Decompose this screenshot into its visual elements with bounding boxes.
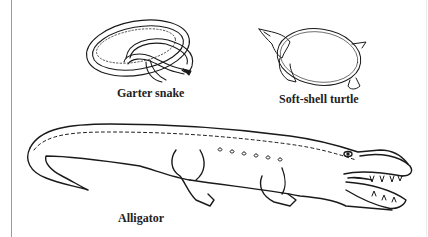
alligator-drawing	[28, 124, 412, 210]
soft-shell-turtle-label: Soft-shell turtle	[279, 92, 359, 107]
alligator-label: Alligator	[118, 211, 164, 226]
garter-snake-drawing	[82, 12, 194, 83]
garter-snake-label: Garter snake	[117, 86, 184, 101]
soft-shell-turtle-drawing	[259, 23, 366, 90]
reptile-illustrations	[0, 0, 428, 237]
